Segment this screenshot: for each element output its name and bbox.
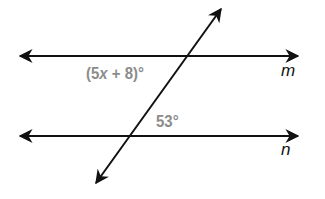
diagram-canvas	[0, 0, 325, 199]
angle-text-pre: (5	[86, 64, 99, 83]
transversal-line	[96, 9, 221, 183]
line-m-label: m	[281, 62, 295, 79]
angle-label-bottom: 53°	[156, 113, 179, 130]
line-n-label: n	[281, 141, 290, 158]
angle-variable: x	[99, 64, 107, 83]
angle-label-top: (5x + 8)°	[86, 65, 144, 82]
angle-text-post: + 8)°	[108, 64, 144, 83]
